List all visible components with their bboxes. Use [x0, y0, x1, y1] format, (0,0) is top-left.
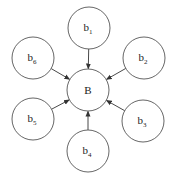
- node-B: B: [67, 69, 109, 111]
- node-b5: b5: [12, 98, 54, 140]
- edge-b2-to-B: [107, 68, 126, 79]
- node-b3: b3: [122, 100, 164, 142]
- nodes-layer: Bb1b2b3b4b5b6: [12, 7, 165, 172]
- node-b4: b4: [67, 130, 109, 172]
- node-label: B: [84, 84, 91, 96]
- node-b2: b2: [123, 37, 165, 79]
- edge-b5-to-B: [52, 100, 69, 109]
- edge-b3-to-B: [107, 101, 125, 111]
- node-b1: b1: [68, 7, 110, 49]
- star-diagram: Bb1b2b3b4b5b6: [0, 0, 172, 180]
- edge-b6-to-B: [51, 69, 69, 80]
- diagram-canvas: Bb1b2b3b4b5b6: [0, 0, 172, 180]
- node-b6: b6: [12, 37, 54, 79]
